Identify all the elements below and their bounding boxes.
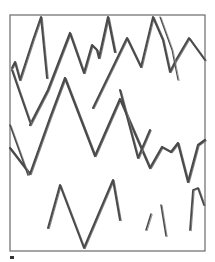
stroke-row3-main — [48, 180, 120, 248]
stroke-shadow — [49, 181, 121, 249]
sketch-frame — [10, 15, 205, 251]
stroke-shadow — [11, 126, 29, 176]
zigzag-strokes — [10, 17, 206, 249]
corner-mark — [10, 256, 14, 259]
stroke-row3-tick2 — [161, 205, 166, 236]
stroke-row1-left — [12, 17, 47, 80]
sketch-canvas — [0, 0, 215, 262]
stroke-row2-vdip — [120, 90, 150, 158]
stroke-row2-main — [10, 78, 205, 182]
stroke-shadow — [11, 79, 206, 183]
